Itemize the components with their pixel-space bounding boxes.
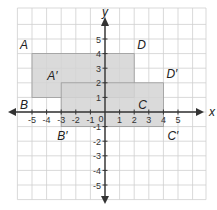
- x-axis-right-arrow-icon: [196, 108, 204, 116]
- y-tick-label: 5: [96, 35, 101, 45]
- label-d-prime: D′: [166, 67, 178, 81]
- x-tick-label: -5: [28, 115, 36, 125]
- y-tick-label: -4: [93, 166, 101, 176]
- x-tick-label: -3: [57, 115, 65, 125]
- x-tick-label: 5: [175, 115, 180, 125]
- x-tick-label: 2: [132, 115, 137, 125]
- y-tick-label: 2: [96, 78, 101, 88]
- label-c: C: [138, 98, 147, 112]
- x-tick-label: 4: [161, 115, 166, 125]
- y-tick-label: -2: [93, 137, 101, 147]
- x-tick-label: 3: [146, 115, 151, 125]
- x-tick-label: -2: [72, 115, 80, 125]
- label-b-prime: B′: [57, 129, 68, 143]
- label-a-prime: A′: [46, 69, 58, 83]
- label-c-prime: C′: [167, 129, 179, 143]
- x-axis-left-arrow-icon: [8, 108, 16, 116]
- label-b: B: [20, 98, 28, 112]
- coordinate-grid-diagram: xy -5-4-3-2-112345054321-1-2-3-4-5 ADBCA…: [0, 0, 217, 210]
- y-tick-label: 1: [96, 93, 101, 103]
- label-a: A: [19, 38, 28, 52]
- y-tick-label: -5: [93, 181, 101, 191]
- label-d: D: [137, 38, 146, 52]
- x-tick-label: 1: [117, 115, 122, 125]
- x-tick-label: -4: [43, 115, 51, 125]
- y-tick-label: -3: [93, 151, 101, 161]
- y-tick-label: 4: [96, 49, 101, 59]
- x-axis-label: x: [208, 105, 216, 119]
- y-axis-label: y: [101, 5, 109, 19]
- y-tick-label: 3: [96, 64, 101, 74]
- y-tick-label: -1: [93, 122, 101, 132]
